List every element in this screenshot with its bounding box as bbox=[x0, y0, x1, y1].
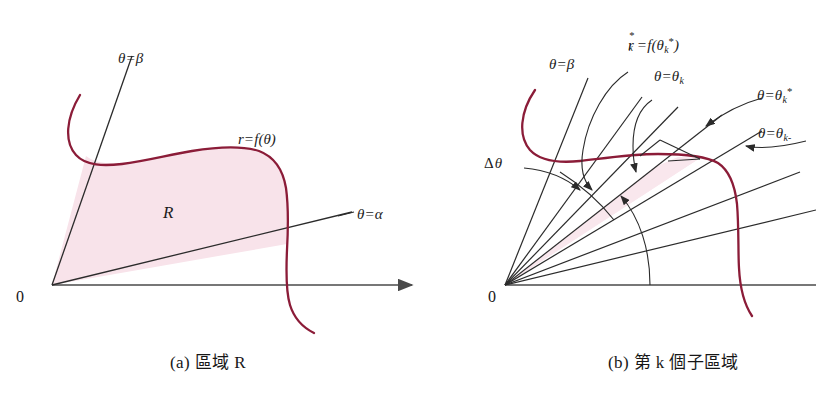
panel-b bbox=[505, 72, 816, 316]
leader-theta-k-star bbox=[706, 98, 762, 126]
caption-panel-a: (a) 區域 R bbox=[170, 348, 246, 373]
leader-delta-theta bbox=[524, 168, 580, 190]
label-theta-k-star: θ=θk* bbox=[757, 85, 792, 105]
leader-r-star-k bbox=[582, 72, 628, 190]
label-r-star-k-equation: r*k=f(θk*) bbox=[628, 35, 679, 55]
panel-a bbox=[52, 56, 412, 333]
origin-label-a: 0 bbox=[16, 288, 24, 306]
ray-b-2 bbox=[505, 172, 800, 285]
wedge-inner-chord-2 bbox=[660, 140, 700, 159]
caption-panel-b: (b) 第 k 個子區域 bbox=[608, 348, 739, 373]
label-curve-equation-a: r=f(θ) bbox=[238, 131, 276, 148]
theta-sweep-arc bbox=[621, 196, 650, 285]
origin-label-b: 0 bbox=[488, 288, 496, 306]
label-delta-theta: Δθ bbox=[483, 155, 502, 172]
polar-region-figure: θ=β θ=α r=f(θ) R 0 (a) 區域 R r*k=f(θk*) θ… bbox=[0, 0, 816, 396]
label-theta-k: θ=θk bbox=[654, 68, 684, 86]
label-theta-alpha-a: θ=α bbox=[357, 206, 383, 223]
label-theta-beta-a: θ=β bbox=[118, 50, 143, 67]
leader-theta-alpha-a bbox=[338, 212, 354, 216]
label-theta-k-minus-1: θ=θk- bbox=[758, 125, 791, 143]
label-region-r: R bbox=[163, 203, 173, 223]
ray-theta-k-star-b bbox=[505, 115, 722, 285]
label-theta-beta-b: θ=β bbox=[549, 56, 574, 73]
